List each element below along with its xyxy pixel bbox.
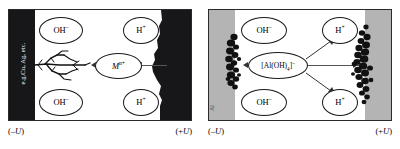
- electrochemical-cell-left: e.g.Cu, Ag, etc.: [8, 9, 192, 121]
- bubble-hydroxide-bottom-right-label: OH–: [256, 98, 271, 107]
- bubble-aluminate-ion-label: [Al(OH)4]–: [261, 62, 294, 70]
- panel-metal-dendrite: e.g.Cu, Ag, etc.: [0, 0, 200, 149]
- bubble-hydroxide-bottom: OH–: [39, 89, 83, 116]
- bubble-proton-top-right: H+: [322, 17, 358, 44]
- bubble-proton-top: H+: [123, 17, 159, 44]
- cathode-material-label: e.g.Cu, Ag, etc.: [19, 28, 26, 100]
- potential-label-positive-right: (+U): [375, 126, 392, 136]
- bubble-proton-top-right-label: H+: [335, 26, 344, 35]
- bubble-hydroxide-top-label: OH–: [53, 26, 68, 35]
- bubble-proton-bottom-label: H+: [136, 98, 145, 107]
- cathode-material-label-al: Al: [209, 94, 215, 121]
- bubble-metal-ion-label: Mn+: [112, 62, 125, 71]
- electrochemical-cell-right: Al: [208, 9, 392, 121]
- bubble-hydroxide-top: OH–: [39, 17, 83, 44]
- bubble-hydroxide-top-right: OH–: [241, 17, 287, 44]
- cathode-dark-left: e.g.Cu, Ag, etc.: [9, 10, 35, 120]
- figure-root: e.g.Cu, Ag, etc.: [0, 0, 400, 149]
- bubble-aluminate-ion: [Al(OH)4]–: [248, 52, 308, 79]
- potential-label-negative-left: (–U): [8, 126, 24, 136]
- bubble-hydroxide-bottom-right: OH–: [241, 89, 287, 116]
- bubble-proton-bottom-right-label: H+: [335, 98, 344, 107]
- potential-label-negative-right: (–U): [208, 126, 224, 136]
- bubble-proton-bottom-right: H+: [322, 89, 358, 116]
- potential-label-positive-left: (+U): [175, 126, 192, 136]
- bubble-metal-ion: Mn+: [95, 53, 142, 79]
- bubble-hydroxide-top-right-label: OH–: [256, 26, 271, 35]
- bubble-proton-bottom: H+: [123, 89, 159, 116]
- bubble-hydroxide-bottom-label: OH–: [53, 98, 68, 107]
- anode-dark-right: [165, 10, 191, 120]
- bubble-proton-top-label: H+: [136, 26, 145, 35]
- dendrite-deposit-icon: [33, 46, 95, 86]
- panel-aluminate: Al: [200, 0, 400, 149]
